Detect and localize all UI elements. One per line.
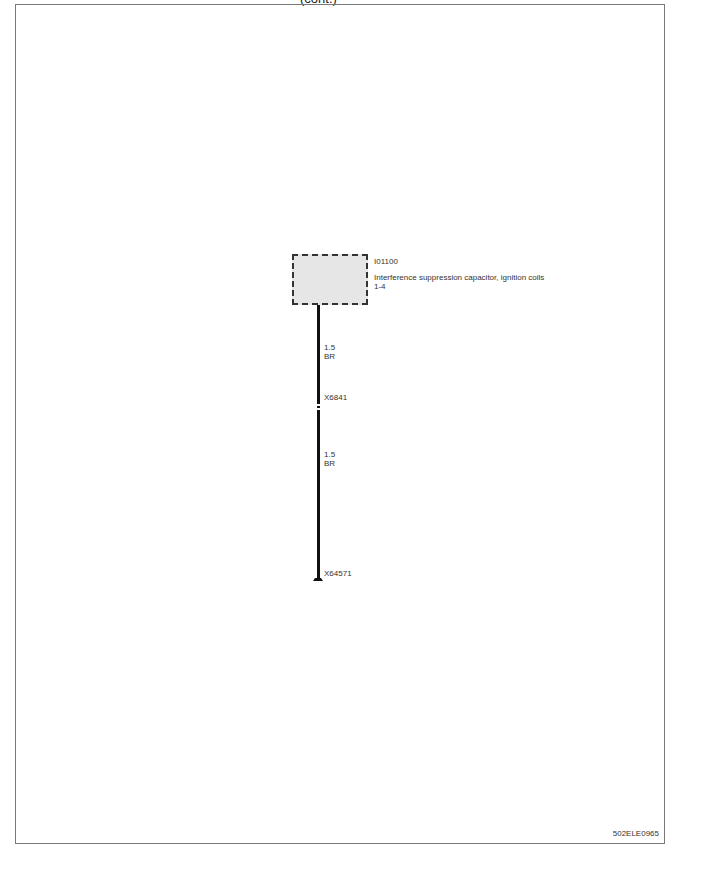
diagram-reference-code: 502ELE0965 [613,829,659,838]
diagram-frame [15,4,665,844]
wire-segment-upper[interactable] [317,305,320,404]
component-box-capacitor[interactable] [292,254,368,305]
ground-terminal-icon [313,578,323,581]
wire-color-lower: BR [324,459,335,469]
component-description-cont: 1-4 [374,282,386,292]
connector-x6841-label: X6841 [324,393,347,403]
wire-segment-lower[interactable] [317,410,320,578]
connector-x6841-icon [317,406,320,408]
component-description: Interference suppression capacitor, igni… [374,273,544,283]
wire-color-upper: BR [324,352,335,362]
component-id: I01100 [374,257,398,267]
connector-x64571-label: X64571 [324,569,352,579]
